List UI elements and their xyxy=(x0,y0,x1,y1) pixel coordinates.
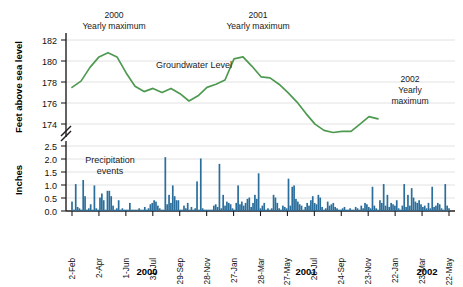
precipitation-bar xyxy=(170,203,172,211)
precipitation-bar xyxy=(370,208,372,211)
precipitation-bar xyxy=(271,208,273,211)
precipitation-bar xyxy=(133,210,135,211)
precipitation-bar xyxy=(71,202,73,211)
precipitation-bar xyxy=(387,195,389,211)
precipitation-bar xyxy=(437,203,439,211)
precipitation-bar xyxy=(107,191,109,211)
precipitation-bar xyxy=(312,196,314,211)
precipitation-bar xyxy=(129,203,131,211)
precipitation-bar xyxy=(338,210,340,211)
precipitation-bar xyxy=(359,210,361,211)
precipitation-bar xyxy=(303,210,305,211)
precipitation-bar xyxy=(73,210,75,211)
x-tick-label: 27-Jan xyxy=(230,258,239,283)
top-y-axis-label: Feet above sea level xyxy=(13,41,24,133)
precipitation-bar xyxy=(377,210,379,211)
precipitation-bar xyxy=(153,200,155,211)
precipitation-bar xyxy=(77,207,79,211)
precipitation-bar xyxy=(306,203,308,211)
precipitation-bar xyxy=(131,210,133,211)
precipitation-bar xyxy=(138,208,140,211)
precipitation-bar xyxy=(413,198,415,211)
precipitation-bar xyxy=(250,207,252,211)
x-tick-label: 23-Nov xyxy=(364,257,373,284)
precipitation-bar xyxy=(418,200,420,211)
x-tick-label: 1-Jun xyxy=(122,258,131,279)
precipitation-bar xyxy=(429,208,431,211)
x-tick-label: 22-Jan xyxy=(391,258,400,283)
precipitation-bar xyxy=(372,187,374,211)
precipitation-bar xyxy=(80,210,82,211)
precipitation-bar xyxy=(187,203,189,211)
precipitation-bar xyxy=(409,206,411,211)
precipitation-bar xyxy=(207,210,209,211)
x-axis-tickmarks xyxy=(72,211,449,216)
precipitation-bar xyxy=(362,208,364,211)
precipitation-bar xyxy=(116,208,118,211)
precipitation-bar xyxy=(209,210,211,211)
annotation-2001-yearly-maximum: 2001 Yearly maximum xyxy=(226,10,289,31)
precipitation-bar xyxy=(150,204,152,211)
precipitation-bar xyxy=(204,210,206,211)
precipitation-bar xyxy=(401,206,403,211)
precipitation-bar xyxy=(428,203,430,211)
precipitation-bar xyxy=(448,208,450,211)
precipitation-bar xyxy=(351,210,353,211)
precipitation-bar xyxy=(321,207,323,211)
bottom-ytick-0_0: 0.0 xyxy=(44,207,57,217)
precipitation-bar xyxy=(202,208,204,211)
precipitation-bar xyxy=(297,202,299,211)
precipitation-bar xyxy=(226,202,228,211)
precipitation-bar xyxy=(168,195,170,211)
precipitation-bar xyxy=(146,210,148,211)
precipitation-bar xyxy=(192,210,194,211)
precipitation-bar xyxy=(379,200,381,211)
precipitation-bar xyxy=(252,203,254,211)
precipitation-bar xyxy=(79,208,81,211)
precipitation-bar xyxy=(108,191,110,211)
precipitation-bar xyxy=(416,203,418,211)
precipitation-bar xyxy=(105,210,107,211)
precipitation-bar xyxy=(101,194,103,212)
precipitation-bar xyxy=(327,202,329,211)
precipitation-bar xyxy=(136,210,138,211)
precipitation-bar xyxy=(151,203,153,211)
precipitation-bar xyxy=(383,184,385,211)
chart-svg: 182 180 178 176 174 Feet above sea level… xyxy=(0,0,463,287)
precipitation-bar xyxy=(82,180,84,211)
precipitation-bar xyxy=(239,204,241,211)
precipitation-bar xyxy=(366,204,368,211)
precipitation-bar xyxy=(435,206,437,211)
x-tick-label: 2-Feb xyxy=(68,258,77,280)
precipitation-bar xyxy=(248,198,250,211)
precipitation-bar xyxy=(103,200,105,211)
precipitation-bar xyxy=(286,208,288,211)
precipitation-bar xyxy=(230,204,232,211)
top-ytick-182: 182 xyxy=(42,36,57,46)
precipitation-bar xyxy=(157,206,159,211)
annotation-2002-line1: 2002 xyxy=(400,74,419,84)
precipitation-bar xyxy=(148,208,150,211)
precipitation-bar xyxy=(123,210,125,211)
precipitation-bar xyxy=(375,208,377,211)
precipitation-bar xyxy=(318,195,320,211)
precipitation-bar xyxy=(336,208,338,211)
precipitation-bar xyxy=(368,207,370,211)
annotation-2000-line1: 2000 xyxy=(104,10,123,20)
precipitation-bar xyxy=(424,206,426,211)
groundwater-precipitation-figure: 182 180 178 176 174 Feet above sea level… xyxy=(0,0,463,287)
precipitation-bar xyxy=(291,187,293,211)
precipitation-bar xyxy=(114,210,116,211)
precipitation-bar xyxy=(385,206,387,211)
precipitation-bar xyxy=(215,204,217,211)
precipitation-bar xyxy=(329,206,331,211)
x-tick-label: 27-May xyxy=(283,257,292,285)
precipitation-bar xyxy=(347,210,349,211)
x-tick-label: 24-Sep xyxy=(337,258,346,285)
annotation-2000-line2: Yearly maximum xyxy=(82,21,145,31)
precipitation-bar xyxy=(241,202,243,211)
precipitation-bar xyxy=(357,208,359,211)
precipitation-bar xyxy=(110,196,112,211)
precipitation-bar xyxy=(405,207,407,211)
precipitation-bar xyxy=(325,208,327,211)
